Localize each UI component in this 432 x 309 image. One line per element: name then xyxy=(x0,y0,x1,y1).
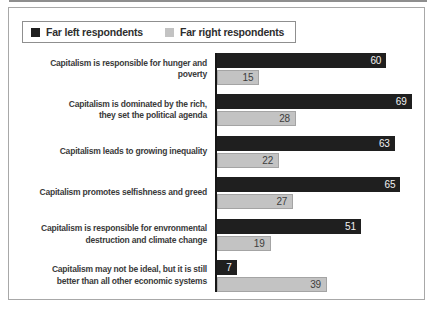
value-label: 22 xyxy=(262,155,273,166)
chart-row: Capitalism leads to growing inequality63… xyxy=(20,136,420,168)
bar-far-left: 7 xyxy=(217,260,237,275)
bar-far-left: 65 xyxy=(217,177,400,192)
value-label: 15 xyxy=(243,72,254,83)
top-rule xyxy=(9,0,427,2)
far-right-swatch-icon xyxy=(165,28,174,37)
chart-row: Capitalism promotes selfishness and gree… xyxy=(20,177,420,209)
value-label: 69 xyxy=(396,96,407,107)
chart-row: Capitalism is dominated by the rich, the… xyxy=(20,94,420,126)
value-label: 7 xyxy=(226,262,231,273)
value-label: 27 xyxy=(276,196,287,207)
chart-row: Capitalism is responsible for hunger and… xyxy=(20,53,420,85)
chart-frame: Far left respondents Far right responden… xyxy=(8,7,425,300)
category-label: Capitalism is responsible for hunger and… xyxy=(20,58,215,81)
value-label: 19 xyxy=(254,238,265,249)
bar-group: 6928 xyxy=(215,94,420,126)
bar-group: 6015 xyxy=(215,53,420,85)
bar-group: 6322 xyxy=(215,136,420,168)
legend: Far left respondents Far right responden… xyxy=(22,21,296,43)
legend-item-far-right: Far right respondents xyxy=(165,26,284,38)
y-axis-line xyxy=(215,53,217,292)
chart-row: Capitalism is responsible for envronment… xyxy=(20,219,420,251)
category-label: Capitalism promotes selfishness and gree… xyxy=(20,187,215,198)
bar-chart: Far left respondents Far right responden… xyxy=(0,0,432,309)
bar-far-right: 28 xyxy=(217,111,296,126)
bar-far-right: 22 xyxy=(217,153,279,168)
chart-row: Capitalism may not be ideal, but it is s… xyxy=(20,260,420,292)
category-label: Capitalism is dominated by the rich, the… xyxy=(20,99,215,122)
bar-group: 5119 xyxy=(215,219,420,251)
legend-label-far-left: Far left respondents xyxy=(46,26,143,38)
value-label: 60 xyxy=(370,55,381,66)
bar-far-right: 19 xyxy=(217,236,271,251)
plot-area: Capitalism is responsible for hunger and… xyxy=(20,53,420,292)
value-label: 28 xyxy=(279,113,290,124)
bar-group: 6527 xyxy=(215,177,420,209)
far-left-swatch-icon xyxy=(31,28,40,37)
bar-far-right: 27 xyxy=(217,194,293,209)
category-label: Capitalism leads to growing inequality xyxy=(20,146,215,157)
bar-far-left: 60 xyxy=(217,53,386,68)
bar-far-right: 39 xyxy=(217,277,327,292)
bar-far-left: 69 xyxy=(217,94,412,109)
legend-label-far-right: Far right respondents xyxy=(180,26,284,38)
bar-far-left: 63 xyxy=(217,136,395,151)
category-label: Capitalism may not be ideal, but it is s… xyxy=(20,264,215,287)
value-label: 51 xyxy=(345,221,356,232)
value-label: 39 xyxy=(310,279,321,290)
bar-far-right: 15 xyxy=(217,70,259,85)
value-label: 63 xyxy=(379,138,390,149)
bar-group: 739 xyxy=(215,260,420,292)
bar-far-left: 51 xyxy=(217,219,361,234)
value-label: 65 xyxy=(385,179,396,190)
category-label: Capitalism is responsible for envronment… xyxy=(20,223,215,246)
legend-item-far-left: Far left respondents xyxy=(31,26,143,38)
